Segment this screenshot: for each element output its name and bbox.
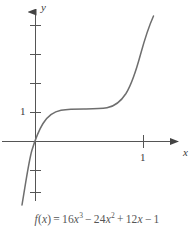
caption-coefficient-quadratic: 24 <box>94 213 106 225</box>
function-curve <box>22 16 154 205</box>
caption-equals: = <box>51 213 62 225</box>
x-axis-label: x <box>183 147 188 158</box>
caption-operator-minus-1: − <box>83 213 94 225</box>
x-axis-tick-label-1: 1 <box>140 152 146 163</box>
plot-canvas <box>0 0 194 233</box>
y-axis-tick-label-1: 1 <box>20 106 26 117</box>
figure-caption: f(x)=16x3−24x2+12x−1 <box>0 211 194 225</box>
caption-coefficient-linear: 12 <box>126 213 138 225</box>
caption-operator-plus: + <box>115 213 126 225</box>
function-graph-figure: y x 1 1 f(x)=16x3−24x2+12x−1 <box>0 0 194 233</box>
caption-constant: 1 <box>154 213 160 225</box>
caption-coefficient-cubic: 16 <box>62 213 74 225</box>
caption-operator-minus-2: − <box>143 213 154 225</box>
y-axis-label: y <box>41 2 46 13</box>
